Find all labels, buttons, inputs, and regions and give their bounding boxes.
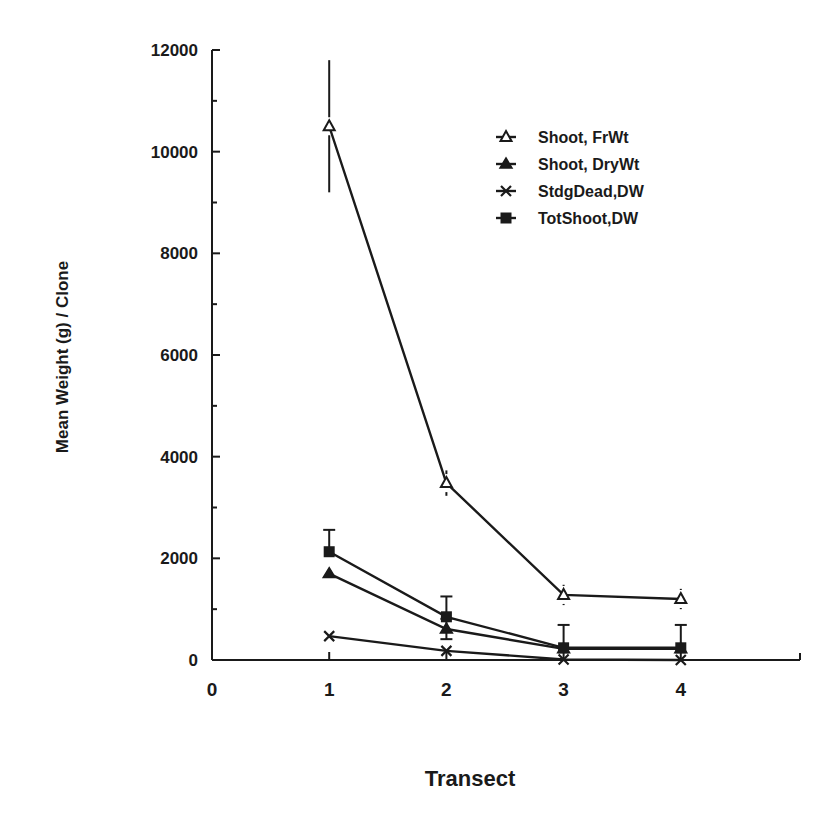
series-shoot-frwt (324, 60, 687, 609)
filled-square-marker (441, 611, 452, 622)
open-triangle-marker (441, 477, 452, 487)
open-triangle-marker (675, 593, 686, 603)
series-lines (323, 60, 687, 665)
series-line (329, 574, 681, 649)
filled-square-marker (501, 213, 512, 224)
legend-label: Shoot, FrWt (538, 129, 629, 146)
open-triangle-marker (501, 131, 512, 141)
x-tick-label: 3 (558, 679, 569, 700)
legend-item: StdgDead,DW (496, 183, 645, 200)
x-axis-title: Transect (425, 766, 516, 791)
y-tick-label: 12000 (151, 41, 198, 60)
y-tick-label: 4000 (160, 448, 198, 467)
y-tick-label: 2000 (160, 549, 198, 568)
filled-square-marker (558, 642, 569, 653)
legend: Shoot, FrWtShoot, DryWtStdgDead,DWTotSho… (496, 129, 645, 227)
series-totshoot-dw (323, 530, 687, 653)
legend-item: TotShoot,DW (496, 210, 639, 227)
x-tick-label: 2 (441, 679, 452, 700)
y-axis-title: Mean Weight (g) / Clone (53, 261, 72, 453)
x-tick-label: 4 (676, 679, 687, 700)
filled-square-marker (324, 546, 335, 557)
open-triangle-marker (324, 120, 335, 130)
filled-triangle-marker (323, 568, 335, 578)
y-tick-label: 0 (189, 651, 198, 670)
legend-item: Shoot, DryWt (496, 156, 640, 173)
legend-label: TotShoot,DW (538, 210, 639, 227)
chart: 02000400060008000100001200001234 Shoot, … (0, 0, 840, 823)
x-tick-label: 1 (324, 679, 335, 700)
filled-square-marker (675, 642, 686, 653)
axes: 02000400060008000100001200001234 (151, 41, 800, 700)
y-tick-label: 10000 (151, 143, 198, 162)
series-shoot-drywt (323, 568, 687, 653)
x-tick-label: 0 (207, 679, 218, 700)
y-tick-label: 8000 (160, 244, 198, 263)
legend-item: Shoot, FrWt (496, 129, 629, 146)
y-tick-label: 6000 (160, 346, 198, 365)
legend-label: Shoot, DryWt (538, 156, 640, 173)
legend-label: StdgDead,DW (538, 183, 645, 200)
